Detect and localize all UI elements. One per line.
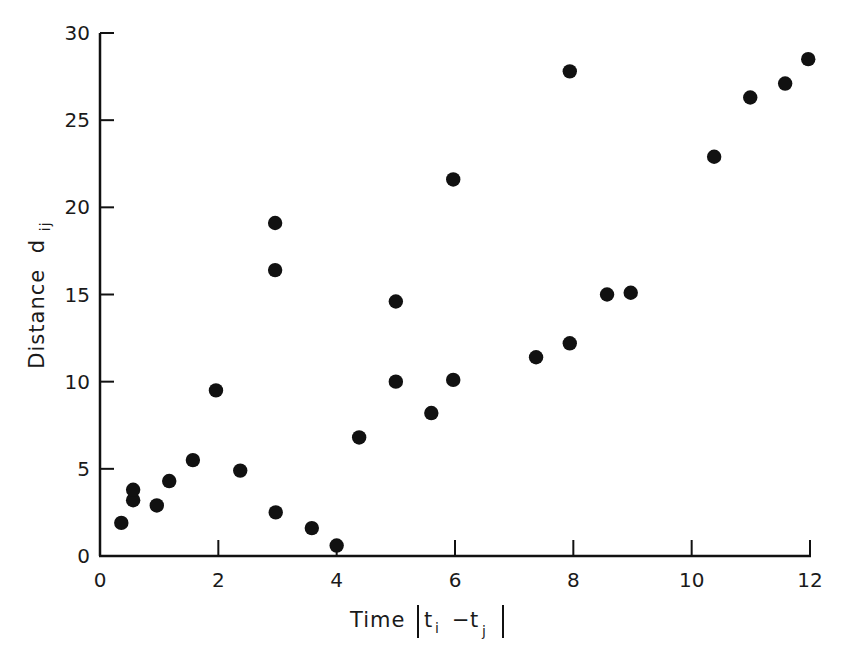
y-ticks: 051015202530 (65, 21, 114, 568)
data-point (269, 505, 283, 519)
y-axis-label-main: Distance (25, 269, 49, 369)
data-point (424, 406, 438, 420)
data-point (150, 498, 164, 512)
data-point (268, 216, 282, 230)
x-tick-label: 10 (679, 568, 704, 592)
data-point (600, 287, 614, 301)
x-axis-label-i: i (435, 620, 440, 636)
data-point (563, 336, 577, 350)
data-point (446, 373, 460, 387)
y-axis-label: Distance d ij (25, 221, 53, 368)
data-point (743, 90, 757, 104)
data-point (162, 474, 176, 488)
y-tick-label: 30 (65, 21, 90, 45)
y-tick-label: 25 (65, 108, 90, 132)
data-point (529, 350, 543, 364)
y-tick-label: 10 (65, 370, 90, 394)
y-axis-label-sub: ij (37, 221, 53, 231)
data-point (352, 430, 366, 444)
x-axis-label-t1: t (424, 608, 433, 632)
scatter-chart: 051015202530 024681012 Distance d ij Tim… (0, 0, 844, 661)
y-tick-label: 0 (77, 544, 90, 568)
x-axis-label: Time t i − t j (349, 605, 503, 639)
data-point (233, 463, 247, 477)
x-axis-label-j: j (481, 623, 487, 639)
x-axis-label-t2: t (470, 608, 479, 632)
data-point (389, 294, 403, 308)
y-tick-label: 15 (65, 283, 90, 307)
x-tick-label: 4 (330, 568, 343, 592)
x-axis-label-minus: − (452, 608, 471, 632)
data-point (209, 383, 223, 397)
x-tick-label: 2 (212, 568, 225, 592)
data-point (268, 263, 282, 277)
data-point (305, 521, 319, 535)
data-point (624, 286, 638, 300)
x-axis-label-main: Time (349, 608, 405, 632)
y-tick-label: 5 (77, 457, 90, 481)
x-ticks: 024681012 (94, 540, 823, 592)
y-tick-label: 20 (65, 195, 90, 219)
data-point (329, 538, 343, 552)
x-tick-label: 6 (449, 568, 462, 592)
x-tick-label: 8 (567, 568, 580, 592)
y-axis-label-d: d (25, 239, 49, 253)
data-point (707, 150, 721, 164)
data-point (389, 374, 403, 388)
data-points (114, 52, 815, 553)
x-tick-label: 0 (94, 568, 107, 592)
x-tick-label: 12 (797, 568, 822, 592)
data-point (186, 453, 200, 467)
data-point (114, 516, 128, 530)
data-point (563, 64, 577, 78)
data-point (801, 52, 815, 66)
data-point (126, 483, 140, 497)
data-point (778, 76, 792, 90)
data-point (446, 172, 460, 186)
axes (99, 33, 811, 556)
